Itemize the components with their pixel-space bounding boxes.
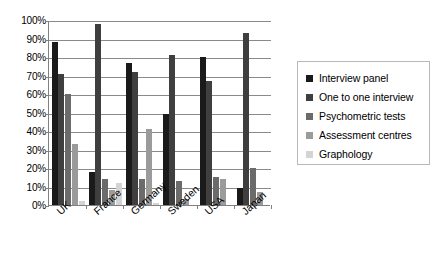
legend-item[interactable]: Interview panel	[306, 69, 429, 88]
legend-item[interactable]: Psychometric tests	[306, 107, 429, 126]
legend-label: Assessment centres	[319, 130, 412, 141]
bar	[237, 188, 243, 205]
bar-group	[52, 21, 86, 205]
x-axis-separator	[271, 205, 272, 209]
bar-group	[89, 21, 123, 205]
x-axis-tick-labels: UKFranceGermanySwedenUSAJapan	[48, 206, 270, 261]
bar	[52, 42, 58, 205]
y-axis-tick-labels: 0%10%20%30%40%50%60%70%80%90%100%	[6, 16, 46, 206]
bar	[58, 74, 64, 205]
legend-swatch-icon	[306, 113, 313, 120]
bar	[65, 94, 71, 205]
bar-group	[126, 21, 160, 205]
legend-swatch-icon	[306, 151, 313, 158]
bars-layer	[49, 21, 270, 205]
y-tick-label: 10%	[27, 183, 46, 193]
bar	[79, 201, 85, 205]
y-tick-label: 40%	[27, 127, 46, 137]
y-tick-label: 70%	[27, 72, 46, 82]
y-tick-label: 90%	[27, 35, 46, 45]
y-tick-label: 100%	[21, 16, 46, 26]
legend-swatch-icon	[306, 75, 313, 82]
bar	[206, 81, 212, 205]
legend-item[interactable]: One to one interview	[306, 88, 429, 107]
bar	[95, 24, 101, 205]
y-tick-label: 30%	[27, 146, 46, 156]
bar-group	[200, 21, 234, 205]
y-tick-label: 0%	[32, 201, 46, 211]
y-tick-label: 60%	[27, 90, 46, 100]
y-tick-label: 50%	[27, 109, 46, 119]
bar-group	[237, 21, 271, 205]
legend-label: One to one interview	[319, 92, 413, 103]
legend-swatch-icon	[306, 132, 313, 139]
legend-item[interactable]: Assessment centres	[306, 126, 429, 145]
legend-item[interactable]: Graphology	[306, 145, 429, 164]
bar-group	[163, 21, 197, 205]
bar	[243, 33, 249, 205]
legend-label: Graphology	[319, 149, 372, 160]
bar	[153, 203, 159, 205]
y-tick-label: 80%	[27, 53, 46, 63]
y-tick-label: 20%	[27, 164, 46, 174]
bar	[132, 72, 138, 205]
legend-label: Interview panel	[319, 73, 388, 84]
bar	[72, 144, 78, 205]
legend-label: Psychometric tests	[319, 111, 405, 122]
chart-legend: Interview panelOne to one interviewPsych…	[297, 61, 430, 165]
bar-chart-figure: 0%10%20%30%40%50%60%70%80%90%100% UKFran…	[0, 0, 438, 261]
bar	[169, 55, 175, 205]
bar	[126, 63, 132, 205]
bar	[200, 57, 206, 205]
bar	[89, 172, 95, 205]
legend-swatch-icon	[306, 94, 313, 101]
